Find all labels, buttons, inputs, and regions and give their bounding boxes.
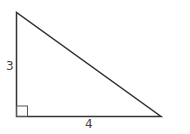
right-angle-marker bbox=[17, 106, 28, 117]
horizontal-leg-label: 4 bbox=[85, 118, 93, 130]
triangle-figure bbox=[0, 0, 190, 134]
right-triangle bbox=[17, 13, 162, 117]
vertical-leg-label: 3 bbox=[6, 60, 14, 72]
